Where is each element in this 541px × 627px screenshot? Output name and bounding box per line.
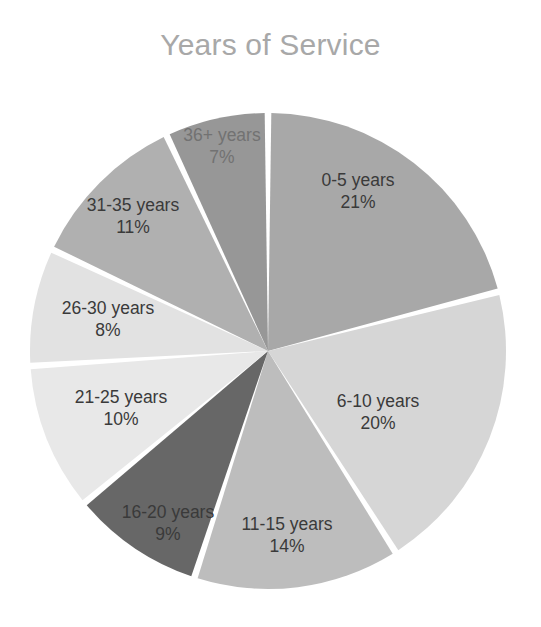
pie-chart: Years of Service 0-5 years21%6-10 years2… [0,0,541,627]
pie-svg [0,86,541,616]
pie-slice-group [30,113,506,589]
pie-plot-area: 0-5 years21%6-10 years20%11-15 years14%1… [0,86,541,616]
chart-title: Years of Service [0,28,541,62]
